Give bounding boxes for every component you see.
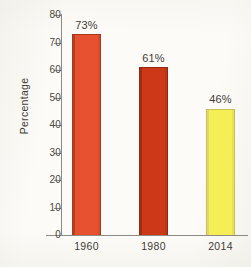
- value-label-1980: 61%: [129, 52, 178, 64]
- y-tick-label-70: 70: [15, 38, 61, 48]
- bar-1960[interactable]: [72, 34, 101, 235]
- bar-2014[interactable]: [206, 109, 235, 236]
- y-tick-label-50: 50: [15, 93, 61, 103]
- bar-1980[interactable]: [139, 67, 168, 235]
- y-tick-label-30: 30: [15, 148, 61, 158]
- y-tick-label-40: 40: [15, 120, 61, 130]
- x-tick-label-2014: 2014: [196, 240, 245, 252]
- bar-chart: Percentage 0 10 20 30 40 50 60: [0, 0, 251, 267]
- y-tick-label-0: 0: [15, 230, 61, 240]
- x-tick-label-1980: 1980: [129, 240, 178, 252]
- y-tick-label-80: 80: [15, 10, 61, 20]
- x-axis-line: [46, 235, 248, 236]
- y-tick-label-60: 60: [15, 65, 61, 75]
- y-tick-label-20: 20: [15, 175, 61, 185]
- plot-area: Percentage 0 10 20 30 40 50 60: [0, 0, 251, 267]
- y-tick-label-10: 10: [15, 203, 61, 213]
- x-tick-label-1960: 1960: [62, 240, 111, 252]
- value-label-1960: 73%: [62, 19, 111, 31]
- y-axis-line: [61, 14, 62, 236]
- value-label-2014: 46%: [196, 93, 245, 105]
